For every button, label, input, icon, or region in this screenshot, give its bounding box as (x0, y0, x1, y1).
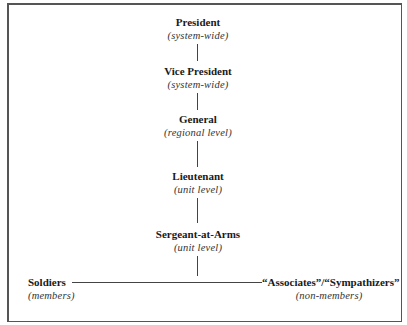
connector-sergeant-branch (197, 256, 198, 276)
node-title: Sergeant-at-Arms (98, 228, 298, 241)
diagram-frame (7, 3, 402, 322)
node-sergeant-at-arms: Sergeant-at-Arms (unit level) (98, 228, 298, 254)
node-title: Lieutenant (98, 170, 298, 183)
node-scope: (regional level) (98, 126, 298, 139)
node-vice-president: Vice President (system-wide) (98, 65, 298, 91)
connector-soldiers-associates (72, 282, 262, 283)
node-title: Soldiers (28, 276, 75, 289)
connector-president-vp (197, 44, 198, 61)
node-scope: (members) (28, 289, 75, 302)
node-title: Vice President (98, 65, 298, 78)
node-general: General (regional level) (98, 113, 298, 139)
node-president: President (system-wide) (98, 16, 298, 42)
node-title: General (98, 113, 298, 126)
node-title: “Associates”/“Sympathizers” (262, 276, 396, 289)
node-title: President (98, 16, 298, 29)
node-scope: (non-members) (262, 289, 396, 302)
connector-lieutenant-sergeant (197, 198, 198, 223)
node-scope: (system-wide) (98, 29, 298, 42)
connector-vp-general (197, 93, 198, 110)
connector-general-lieutenant (197, 141, 198, 167)
node-associates-sympathizers: “Associates”/“Sympathizers” (non-members… (262, 276, 396, 302)
node-lieutenant: Lieutenant (unit level) (98, 170, 298, 196)
node-scope: (system-wide) (98, 78, 298, 91)
node-scope: (unit level) (98, 241, 298, 254)
node-soldiers: Soldiers (members) (28, 276, 75, 302)
node-scope: (unit level) (98, 183, 298, 196)
